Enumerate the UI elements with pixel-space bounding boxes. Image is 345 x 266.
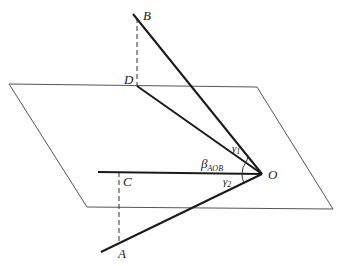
- plane: [9, 84, 333, 209]
- label-gamma2: γ2: [223, 175, 231, 189]
- label-D: D: [123, 72, 134, 87]
- arc-beta: [242, 162, 246, 174]
- projection-diagram: B D O C A γ1 βAOB γ2: [0, 0, 345, 266]
- arc-gamma1: [246, 157, 248, 162]
- label-C: C: [123, 174, 132, 189]
- arc-gamma2: [242, 174, 244, 183]
- label-A: A: [117, 246, 126, 261]
- label-O: O: [268, 167, 278, 182]
- line-BO: [133, 14, 262, 174]
- label-B: B: [143, 8, 151, 23]
- line-DO: [137, 86, 262, 174]
- label-beta: βAOB: [200, 156, 223, 173]
